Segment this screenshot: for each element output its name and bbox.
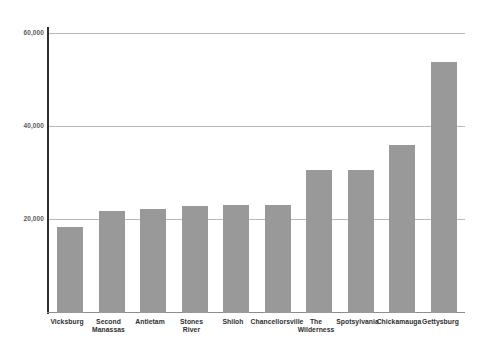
bar[interactable] xyxy=(306,170,332,313)
y-axis-labels: 60,000 40,000 20,000 xyxy=(0,20,44,314)
bar-series xyxy=(49,20,466,313)
y-tick-label-40000: 40,000 xyxy=(4,122,44,129)
y-tick-label-20000: 20,000 xyxy=(4,215,44,222)
bar-slot xyxy=(50,20,90,313)
bar-slot xyxy=(382,20,422,313)
bar[interactable] xyxy=(389,145,415,313)
x-axis-category-label: Gettysburg xyxy=(417,318,465,326)
bar[interactable] xyxy=(265,205,291,313)
y-tick-label-60000: 60,000 xyxy=(4,29,44,36)
bar-slot xyxy=(133,20,173,313)
bar-slot xyxy=(341,20,381,313)
x-axis-category-label-line: Wilderness xyxy=(292,326,340,334)
bar-slot xyxy=(92,20,132,313)
bar[interactable] xyxy=(431,62,457,313)
x-axis-category-label-line: Gettysburg xyxy=(417,318,465,326)
bar-chart: 60,000 40,000 20,000 VicksburgSecondMana… xyxy=(0,0,486,360)
bar-slot xyxy=(299,20,339,313)
bar[interactable] xyxy=(223,205,249,313)
bar[interactable] xyxy=(140,209,166,313)
bar[interactable] xyxy=(182,206,208,313)
bar[interactable] xyxy=(348,170,374,313)
x-axis-category-label-line: River xyxy=(168,326,216,334)
bar-slot xyxy=(258,20,298,313)
bar-slot xyxy=(216,20,256,313)
bar[interactable] xyxy=(57,227,83,313)
bar-slot xyxy=(175,20,215,313)
bar[interactable] xyxy=(99,211,125,313)
x-axis-labels: VicksburgSecondManassasAntietamStonesRiv… xyxy=(49,318,466,356)
bar-slot xyxy=(424,20,464,313)
x-axis-category-label-line: Manassas xyxy=(85,326,133,334)
